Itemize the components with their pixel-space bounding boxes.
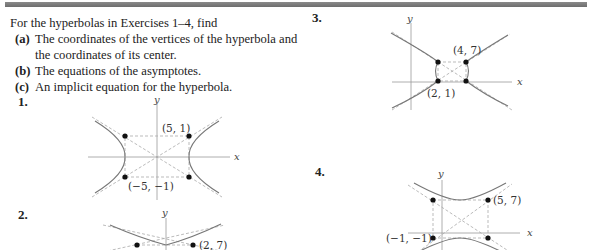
graph-4: y x (5, 7) (−1, −1) <box>386 168 533 250</box>
svg-text:(−1, −1): (−1, −1) <box>386 232 432 244</box>
hyperbola-graphs: y x (5, 1) (−5, −1) y (2, 7) y x (4, 7) … <box>0 0 594 250</box>
graph-3: y x (4, 7) (2, 1) <box>391 13 523 110</box>
svg-text:(2, 1): (2, 1) <box>427 87 455 99</box>
svg-text:x: x <box>517 76 523 87</box>
svg-text:(4, 7): (4, 7) <box>453 44 481 56</box>
graph-2: y (2, 7) <box>103 207 227 250</box>
svg-text:y: y <box>406 13 413 24</box>
svg-text:y: y <box>437 168 444 179</box>
svg-text:x: x <box>234 151 240 162</box>
svg-text:(2, 7): (2, 7) <box>199 239 227 250</box>
svg-text:(5, 1): (5, 1) <box>162 122 190 134</box>
svg-text:y: y <box>153 94 160 105</box>
graph-1: y x (5, 1) (−5, −1) <box>88 94 240 200</box>
svg-text:(−5, −1): (−5, −1) <box>128 180 174 192</box>
svg-text:y: y <box>161 207 168 218</box>
svg-text:x: x <box>527 227 533 238</box>
svg-text:(5, 7): (5, 7) <box>493 194 521 206</box>
